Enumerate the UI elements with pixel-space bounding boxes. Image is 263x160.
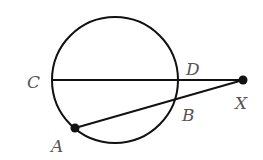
label-a: A	[49, 136, 63, 156]
label-x: X	[233, 93, 248, 113]
point-x-dot	[239, 76, 248, 85]
label-b: B	[181, 105, 195, 125]
label-c: C	[27, 72, 40, 92]
label-d: D	[185, 59, 200, 79]
segment-ax	[75, 80, 243, 128]
geometry-diagram: C D X B A	[0, 0, 263, 160]
point-a-dot	[71, 124, 80, 133]
